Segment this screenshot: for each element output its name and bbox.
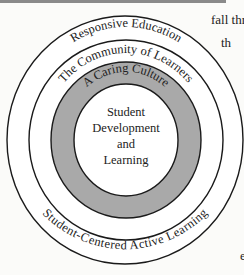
center-line-4: Learning	[103, 153, 149, 167]
body-text-fragment-2: th	[221, 35, 231, 51]
body-text-fragment-1: fall thr	[211, 12, 244, 28]
concentric-circles-diagram: Responsive Education The Community of Le…	[0, 0, 244, 275]
center-line-3: and	[117, 137, 136, 151]
center-line-1: Student	[107, 105, 146, 119]
body-text-fragment-3: e	[240, 248, 244, 264]
center-line-2: Development	[92, 121, 160, 135]
